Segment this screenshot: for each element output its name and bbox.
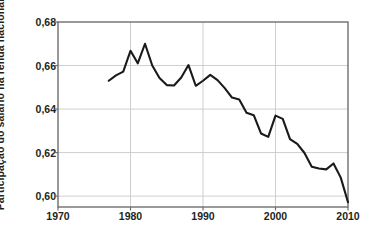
data-series-line [109, 44, 348, 202]
x-tick-label: 2010 [336, 211, 359, 222]
plot-area [0, 0, 374, 243]
x-tick-label: 2000 [264, 211, 287, 222]
chart-figure: Participação do salário na renda naciona… [0, 0, 374, 243]
x-axis-tick-labels: 19701980199020002010 [0, 211, 374, 229]
x-tick-label: 1980 [119, 211, 142, 222]
axis-ticks [55, 22, 349, 211]
gridlines [58, 22, 348, 207]
x-tick-label: 1990 [191, 211, 214, 222]
x-tick-label: 1970 [46, 211, 69, 222]
